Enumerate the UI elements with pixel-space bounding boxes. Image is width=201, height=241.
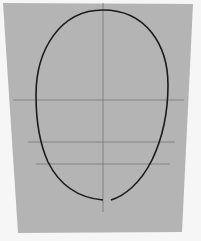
drawing [0,0,201,241]
